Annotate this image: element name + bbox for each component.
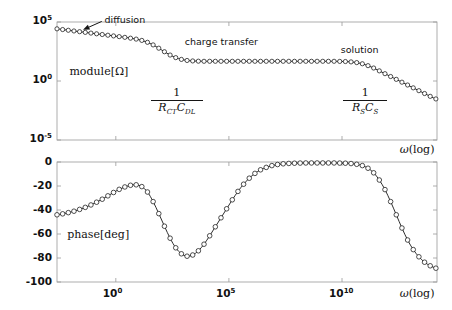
- phase-xtick-label-3: 1010: [329, 288, 353, 299]
- magnitude-axis-label: module[Ω]: [69, 66, 128, 77]
- fraction-numerator: 1: [151, 87, 203, 99]
- annotation-solution: solution: [341, 45, 379, 55]
- magnitude-ytick-label-1: 105: [20, 15, 52, 26]
- phase-axis-label: phase[deg]: [67, 229, 129, 240]
- phase-ytick-label-3: -40: [14, 204, 52, 215]
- fraction-denominator: RCTCDL: [151, 102, 203, 114]
- phase-ytick-label-5: -80: [14, 252, 52, 263]
- annotation-frequency-rs-cs: 1 RSCS: [343, 87, 387, 113]
- bode-plot-figure: 105 100 10-5 diffusion charge transfer s…: [0, 0, 452, 310]
- phase-xaxis-label: ω(log): [400, 288, 435, 299]
- phase-ytick-label-2: -20: [14, 180, 52, 191]
- phase-xtick-label-2: 105: [216, 288, 236, 299]
- fraction-denominator: RSCS: [343, 102, 387, 114]
- diffusion-arrow-icon: [83, 21, 102, 29]
- annotation-diffusion: diffusion: [105, 15, 146, 25]
- annotation-frequency-rct-cdl: 1 RCTCDL: [151, 87, 203, 113]
- phase-xtick-label-1: 100: [103, 288, 123, 299]
- phase-markers: [55, 161, 438, 271]
- phase-ytick-label-6: -100: [14, 276, 52, 287]
- phase-ytick-label-4: -60: [14, 228, 52, 239]
- phase-ytick-label-1: 0: [14, 156, 52, 167]
- annotation-charge-transfer: charge transfer: [185, 37, 258, 47]
- fraction-numerator: 1: [343, 87, 387, 99]
- magnitude-ytick-label-3: 10-5: [20, 133, 52, 144]
- magnitude-ytick-label-2: 100: [20, 74, 52, 85]
- magnitude-xaxis-label: ω(log): [400, 144, 435, 155]
